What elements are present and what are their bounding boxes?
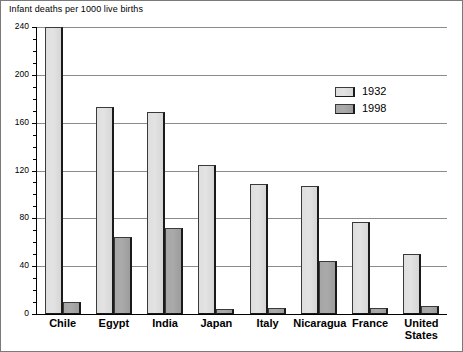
- x-label-france: France: [345, 317, 396, 329]
- x-label-egypt: Egypt: [88, 317, 139, 329]
- y-label-120: 120: [3, 166, 29, 175]
- bar-nicaragua-1998: [319, 261, 337, 314]
- bar-japan-1998: [216, 309, 234, 314]
- gridline-0: [37, 314, 447, 315]
- x-label-nicaragua: Nicaragua: [293, 317, 344, 329]
- bar-france-1998: [370, 308, 388, 314]
- legend-item-1998: 1998: [335, 102, 421, 115]
- legend-swatch-1998: [335, 104, 355, 114]
- y-label-200: 200: [3, 70, 29, 79]
- plot-area: [37, 27, 447, 314]
- bar-italy-1932: [250, 184, 268, 314]
- bar-chile-1998: [63, 302, 81, 314]
- x-label-italy: Italy: [242, 317, 293, 329]
- legend-label-1998: 1998: [362, 103, 386, 114]
- x-label-japan: Japan: [191, 317, 242, 329]
- y-label-0: 0: [3, 309, 29, 318]
- y-label-80: 80: [3, 213, 29, 222]
- bar-egypt-1998: [114, 237, 132, 314]
- y-label-160: 160: [3, 118, 29, 127]
- x-label-india: India: [140, 317, 191, 329]
- bar-italy-1998: [268, 308, 286, 314]
- x-label-chile: Chile: [37, 317, 88, 329]
- bar-india-1932: [147, 112, 165, 314]
- bar-egypt-1932: [96, 107, 114, 314]
- bar-india-1998: [165, 228, 183, 314]
- legend: 1932 1998: [335, 85, 421, 119]
- legend-item-1932: 1932: [335, 85, 421, 98]
- gridline-200: [37, 75, 447, 76]
- x-label-united-states: United States: [396, 317, 447, 341]
- gridline-240: [37, 27, 447, 28]
- x-axis-category-labels: ChileEgyptIndiaJapanItalyNicaraguaFrance…: [37, 317, 447, 351]
- bar-france-1932: [352, 222, 370, 314]
- y-label-40: 40: [3, 261, 29, 270]
- chart-title: Infant deaths per 1000 live births: [9, 4, 143, 14]
- chart-figure: Infant deaths per 1000 live births 04080…: [0, 0, 463, 352]
- bar-united-states-1932: [403, 254, 421, 314]
- legend-label-1932: 1932: [362, 86, 386, 97]
- y-axis-tick-labels: 04080120160200240: [1, 1, 29, 352]
- legend-swatch-1932: [335, 87, 355, 97]
- y-label-240: 240: [3, 22, 29, 31]
- bar-united-states-1998: [421, 306, 439, 314]
- bar-japan-1932: [198, 165, 216, 314]
- bar-chile-1932: [45, 27, 63, 314]
- bar-nicaragua-1932: [301, 186, 319, 314]
